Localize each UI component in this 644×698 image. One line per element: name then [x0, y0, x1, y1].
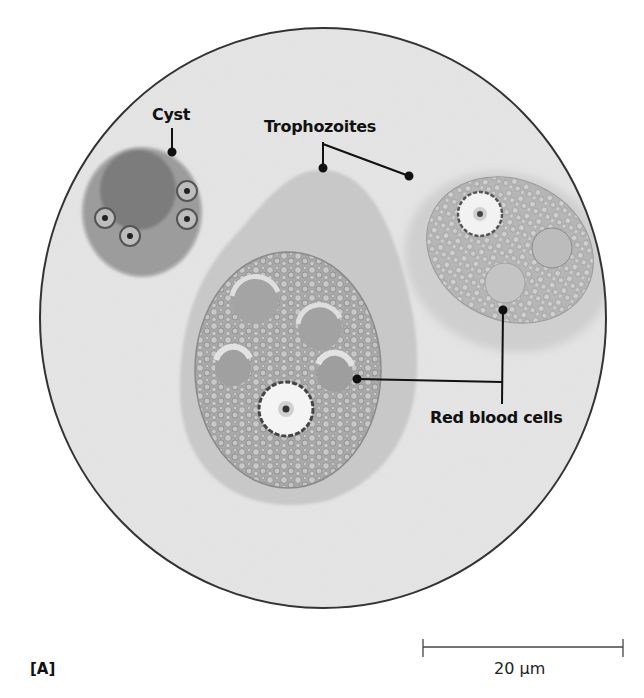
ingested-red-blood-cell — [298, 305, 342, 350]
panel-label: [A] — [30, 660, 55, 678]
cyst-nucleus — [177, 209, 197, 229]
cyst — [82, 147, 202, 277]
ingested-red-blood-cell — [215, 347, 251, 386]
trophozoite-nucleus — [458, 192, 502, 236]
ingested-red-blood-cell — [532, 228, 572, 268]
trophozoite-nucleus — [259, 382, 313, 436]
cyst-nucleus — [177, 181, 197, 201]
cyst-nucleus — [120, 226, 140, 246]
ingested-red-blood-cell — [317, 353, 353, 392]
micrograph-illustration — [0, 0, 644, 698]
ingested-red-blood-cell — [485, 263, 525, 303]
scale-bar — [423, 639, 623, 657]
scale-bar-label: 20 µm — [494, 659, 545, 678]
label-cyst: Cyst — [152, 105, 190, 124]
label-trophozoites: Trophozoites — [264, 117, 376, 136]
cyst-nucleus — [95, 208, 115, 228]
label-red-blood-cells: Red blood cells — [430, 408, 562, 427]
ingested-red-blood-cell — [231, 276, 279, 324]
